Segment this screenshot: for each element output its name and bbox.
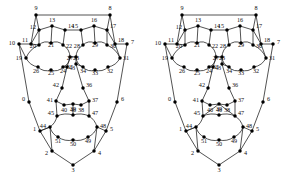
graph-node[interactable] bbox=[264, 56, 268, 60]
node-label: 2 bbox=[191, 149, 194, 156]
graph-node[interactable] bbox=[271, 42, 275, 46]
graph-node[interactable] bbox=[115, 100, 119, 104]
graph-node[interactable] bbox=[206, 86, 210, 90]
graph-node[interactable] bbox=[180, 13, 184, 17]
graph-node[interactable] bbox=[60, 86, 64, 90]
graph-node[interactable] bbox=[233, 99, 237, 103]
node-label: 48 bbox=[246, 122, 252, 129]
node-label: 10 bbox=[155, 39, 161, 46]
graph-node[interactable] bbox=[201, 114, 205, 118]
node-label: 29 bbox=[238, 41, 244, 48]
graph-node[interactable] bbox=[87, 99, 91, 103]
graph-edge bbox=[26, 58, 38, 67]
right-graph: 0123456789101112131415161718192021222324… bbox=[155, 4, 280, 173]
graph-node[interactable] bbox=[24, 56, 28, 60]
graph-node[interactable] bbox=[238, 24, 242, 28]
node-label: 33 bbox=[92, 69, 98, 76]
graph-node[interactable] bbox=[241, 125, 245, 129]
graph-node[interactable] bbox=[196, 149, 200, 153]
node-label: 1 bbox=[33, 125, 36, 132]
graph-node[interactable] bbox=[254, 13, 258, 17]
graph-node[interactable] bbox=[200, 99, 204, 103]
graph-node[interactable] bbox=[95, 125, 99, 129]
graph-node[interactable] bbox=[55, 114, 59, 118]
graph-node[interactable] bbox=[183, 43, 187, 47]
graph-node[interactable] bbox=[238, 149, 242, 153]
node-label: 38 bbox=[78, 106, 84, 113]
graph-edge bbox=[235, 116, 243, 127]
graph-node[interactable] bbox=[170, 56, 174, 60]
graph-node[interactable] bbox=[251, 43, 255, 47]
graph-node[interactable] bbox=[74, 55, 78, 59]
graph-node[interactable] bbox=[92, 24, 96, 28]
node-label: 37 bbox=[92, 96, 98, 103]
graph-node[interactable] bbox=[50, 149, 54, 153]
graph-node[interactable] bbox=[81, 43, 85, 47]
graph-node[interactable] bbox=[207, 43, 211, 47]
graph-edge bbox=[219, 151, 240, 165]
graph-node[interactable] bbox=[37, 28, 41, 32]
graph-node[interactable] bbox=[183, 28, 187, 32]
graph-node[interactable] bbox=[54, 99, 58, 103]
node-label: 46 bbox=[216, 106, 222, 113]
node-label: 42 bbox=[199, 81, 205, 88]
node-label: 3 bbox=[217, 166, 220, 173]
graph-node[interactable] bbox=[79, 28, 83, 32]
graph-node[interactable] bbox=[163, 42, 167, 46]
node-label: 44 bbox=[40, 122, 46, 129]
graph-node[interactable] bbox=[81, 86, 85, 90]
graph-node[interactable] bbox=[27, 100, 31, 104]
graph-node[interactable] bbox=[251, 28, 255, 32]
graph-node[interactable] bbox=[61, 43, 65, 47]
graph-edge bbox=[254, 58, 266, 67]
node-label: 18 bbox=[264, 36, 270, 43]
graph-node[interactable] bbox=[50, 24, 54, 28]
node-label: 46 bbox=[70, 106, 76, 113]
graph-node[interactable] bbox=[225, 28, 229, 32]
graph-node[interactable] bbox=[196, 24, 200, 28]
node-label: 0 bbox=[22, 95, 25, 102]
graph-node[interactable] bbox=[220, 55, 224, 59]
node-label: 30 bbox=[110, 42, 116, 49]
graph-node[interactable] bbox=[250, 129, 254, 133]
node-label: 1 bbox=[179, 125, 182, 132]
node-label: 51 bbox=[55, 137, 61, 144]
graph-node[interactable] bbox=[227, 43, 231, 47]
graph-node[interactable] bbox=[71, 113, 75, 117]
graph-edge bbox=[94, 26, 107, 30]
node-label: 49 bbox=[231, 137, 237, 144]
graph-node[interactable] bbox=[105, 43, 109, 47]
graph-node[interactable] bbox=[37, 43, 41, 47]
node-label: 40 bbox=[207, 106, 213, 113]
graph-node[interactable] bbox=[184, 129, 188, 133]
graph-edge bbox=[165, 44, 175, 102]
graph-node[interactable] bbox=[92, 149, 96, 153]
graph-edge bbox=[73, 151, 94, 165]
graph-node[interactable] bbox=[125, 42, 129, 46]
graph-node[interactable] bbox=[38, 129, 42, 133]
node-label: 26 bbox=[179, 67, 185, 74]
graph-node[interactable] bbox=[105, 28, 109, 32]
graph-node[interactable] bbox=[34, 13, 38, 17]
graph-node[interactable] bbox=[108, 13, 112, 17]
graph-node[interactable] bbox=[173, 100, 177, 104]
graph-node[interactable] bbox=[233, 114, 237, 118]
node-label: 21 bbox=[48, 41, 54, 48]
graph-node[interactable] bbox=[194, 125, 198, 129]
graph-node[interactable] bbox=[87, 114, 91, 118]
graph-node[interactable] bbox=[17, 42, 21, 46]
graph-node[interactable] bbox=[227, 86, 231, 90]
graph-node[interactable] bbox=[63, 28, 67, 32]
graph-node[interactable] bbox=[48, 125, 52, 129]
node-label: 0 bbox=[168, 95, 171, 102]
graph-edge bbox=[185, 26, 198, 30]
node-label: 36 bbox=[86, 81, 92, 88]
graph-node[interactable] bbox=[209, 28, 213, 32]
node-label: 2 bbox=[45, 149, 48, 156]
node-label: 22 bbox=[212, 42, 218, 49]
node-label: 38 bbox=[224, 106, 230, 113]
graph-node[interactable] bbox=[104, 129, 108, 133]
graph-node[interactable] bbox=[261, 100, 265, 104]
graph-node[interactable] bbox=[217, 113, 221, 117]
graph-node[interactable] bbox=[118, 56, 122, 60]
